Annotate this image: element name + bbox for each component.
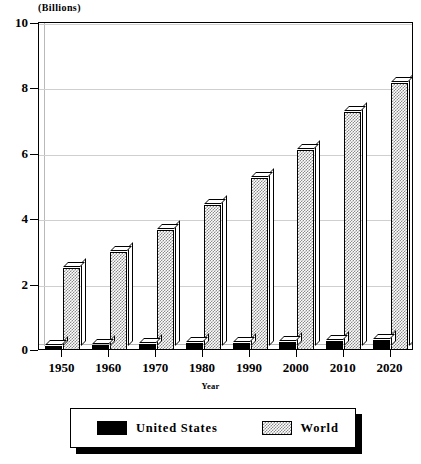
x-axis-tick	[108, 350, 109, 357]
bar-world-1970	[157, 230, 174, 350]
x-axis-tick	[249, 350, 250, 357]
bar-world-2010	[344, 112, 361, 350]
bar-world-2000	[297, 150, 314, 350]
gridline	[39, 89, 413, 90]
x-axis-tick	[343, 350, 344, 357]
bar-side-face	[81, 258, 86, 346]
bar-side-face	[222, 195, 227, 346]
bar-united-states-1990	[233, 343, 250, 350]
legend-swatch-united-states	[97, 421, 127, 435]
bar-front-face	[186, 343, 203, 350]
y-axis-tick-label: 2	[0, 277, 28, 293]
y-axis-tick-label: 6	[0, 146, 28, 162]
y-axis-tick	[30, 350, 38, 351]
bar-chart: (Billions) 0246810 195019601970198019902…	[0, 0, 421, 464]
bar-united-states-2010	[326, 341, 343, 350]
bar-front-face	[251, 178, 268, 350]
bar-united-states-2000	[279, 342, 296, 350]
x-axis-title: Year	[0, 381, 421, 391]
bar-front-face	[344, 112, 361, 350]
x-axis-tick	[390, 350, 391, 357]
bar-front-face	[157, 230, 174, 350]
bar-world-1980	[204, 205, 221, 350]
bar-united-states-2020	[373, 340, 390, 350]
bar-side-face	[175, 220, 180, 346]
legend-item-united-states: United States	[97, 421, 218, 436]
bar-front-face	[139, 344, 156, 350]
bar-front-face	[279, 342, 296, 350]
bar-side-face	[128, 242, 133, 346]
bar-front-face	[204, 205, 221, 350]
bar-united-states-1980	[186, 343, 203, 350]
legend: United States World	[70, 408, 356, 448]
bar-side-face	[269, 168, 274, 346]
gridline	[39, 24, 413, 25]
plot-left-wall	[44, 23, 45, 346]
x-axis-tick	[155, 350, 156, 357]
bar-front-face	[326, 341, 343, 350]
bar-world-2020	[391, 83, 408, 350]
legend-swatch-world	[262, 421, 292, 435]
y-axis-tick	[30, 23, 38, 24]
legend-label-united-states: United States	[136, 421, 218, 436]
bar-side-face	[315, 140, 320, 346]
y-axis-tick	[30, 219, 38, 220]
y-axis-tick-label: 8	[0, 80, 28, 96]
bar-united-states-1960	[92, 345, 109, 350]
legend-item-world: World	[262, 421, 339, 436]
bar-front-face	[92, 345, 109, 350]
bar-front-face	[233, 343, 250, 350]
legend-label-world: World	[301, 421, 339, 436]
bar-front-face	[391, 83, 408, 350]
bar-front-face	[110, 252, 127, 350]
plot-area	[38, 22, 413, 350]
x-axis-tick-label: 2020	[360, 360, 420, 376]
y-axis-unit-label: (Billions)	[38, 2, 81, 13]
bar-united-states-1950	[45, 346, 62, 350]
bar-front-face	[45, 346, 62, 350]
bar-front-face	[373, 340, 390, 350]
bar-united-states-1970	[139, 344, 156, 350]
y-axis-tick-label: 10	[0, 15, 28, 31]
y-axis-tick	[30, 88, 38, 89]
bar-world-1990	[251, 178, 268, 350]
x-axis-tick	[61, 350, 62, 357]
bar-world-1960	[110, 252, 127, 350]
y-axis-tick	[30, 154, 38, 155]
bar-side-face	[409, 73, 413, 346]
y-axis-tick	[30, 285, 38, 286]
x-axis-tick	[296, 350, 297, 357]
y-axis-tick-label: 0	[0, 342, 28, 358]
x-axis-tick	[202, 350, 203, 357]
bar-front-face	[297, 150, 314, 350]
y-axis-tick-label: 4	[0, 211, 28, 227]
bar-side-face	[362, 102, 367, 346]
